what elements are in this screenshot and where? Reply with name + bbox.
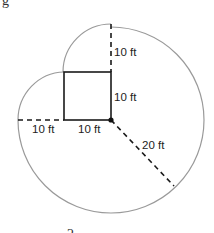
label-large-radius: 20 ft — [142, 139, 165, 151]
label-square-bottom-side: 10 ft — [78, 123, 101, 135]
tethered-area-diagram: g 2 10 ft 10 ft 10 ft 10 ft 20 ft — [0, 0, 214, 233]
tether-point-dot — [108, 117, 113, 122]
square-shed — [64, 72, 111, 120]
clipped-heading-fragment: g — [2, 0, 9, 8]
diagram-canvas: g 2 10 ft 10 ft 10 ft 10 ft 20 ft — [0, 0, 214, 233]
top-quarter-arc — [63, 24, 111, 72]
clipped-caption-fragment: 2 — [67, 227, 74, 233]
label-top-radius: 10 ft — [114, 46, 137, 58]
large-radius-dashed-line — [111, 120, 174, 186]
label-square-right-side: 10 ft — [114, 91, 137, 103]
label-left-radius: 10 ft — [32, 123, 55, 135]
left-quarter-arc — [18, 72, 64, 120]
